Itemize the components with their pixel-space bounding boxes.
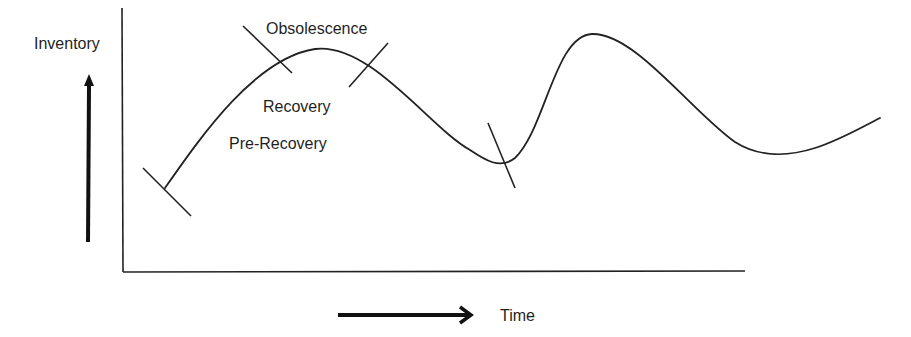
x-axis-label: Time bbox=[500, 308, 535, 324]
x-axis bbox=[123, 271, 745, 272]
phase-marker-recovery bbox=[349, 43, 388, 87]
arrow-up-icon bbox=[84, 74, 94, 242]
arrow-right-icon bbox=[338, 307, 471, 323]
y-axis-label: Inventory bbox=[34, 36, 100, 52]
inventory-diagram bbox=[0, 0, 911, 337]
phase-label-obsolescence: Obsolescence bbox=[266, 21, 367, 37]
phase-label-recovery: Recovery bbox=[263, 99, 331, 115]
y-axis bbox=[122, 8, 123, 272]
phase-marker-obsolescence bbox=[488, 123, 515, 188]
phase-marker-start bbox=[143, 168, 191, 216]
phase-label-pre-recovery: Pre-Recovery bbox=[229, 136, 327, 152]
